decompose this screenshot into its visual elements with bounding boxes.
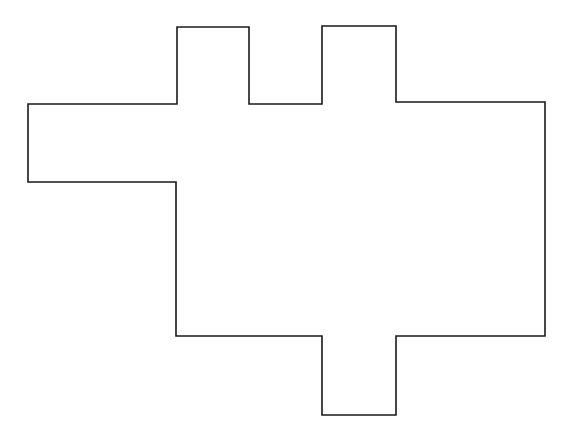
figure-canvas [0, 0, 574, 442]
polygon-figure-svg [0, 0, 574, 442]
